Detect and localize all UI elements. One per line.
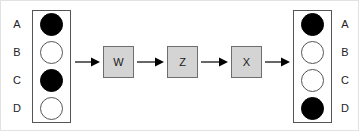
arrow-w-to-z <box>137 56 165 68</box>
operator-box-w[interactable]: W <box>103 46 134 78</box>
input-cell-3 <box>40 97 63 120</box>
operator-label-w: W <box>113 56 123 68</box>
output-vector-labels: A B C D <box>335 10 355 123</box>
output-label-0: A <box>341 19 349 30</box>
operator-box-x[interactable]: X <box>231 46 262 78</box>
output-label-2: C <box>341 75 349 86</box>
input-cell-0 <box>40 13 63 36</box>
operator-box-z[interactable]: Z <box>167 46 198 78</box>
input-label-2: C <box>13 75 21 86</box>
output-vector <box>293 10 332 123</box>
input-vector <box>32 10 71 123</box>
input-label-3: D <box>13 103 21 114</box>
output-cell-2 <box>301 69 324 92</box>
diagram-canvas: A B C D W Z X <box>0 0 359 131</box>
input-label-1: B <box>13 47 21 58</box>
input-vector-labels: A B C D <box>7 10 27 123</box>
input-cell-2 <box>40 69 63 92</box>
output-label-1: B <box>341 47 349 58</box>
arrow-input-to-w <box>75 56 101 68</box>
arrow-z-to-x <box>201 56 229 68</box>
operator-label-x: X <box>243 56 250 68</box>
input-label-0: A <box>13 19 21 30</box>
operator-label-z: Z <box>179 56 186 68</box>
output-cell-0 <box>301 13 324 36</box>
arrow-x-to-output <box>265 56 291 68</box>
output-label-3: D <box>341 103 349 114</box>
output-cell-3 <box>301 97 324 120</box>
output-cell-1 <box>301 41 324 64</box>
input-cell-1 <box>40 41 63 64</box>
